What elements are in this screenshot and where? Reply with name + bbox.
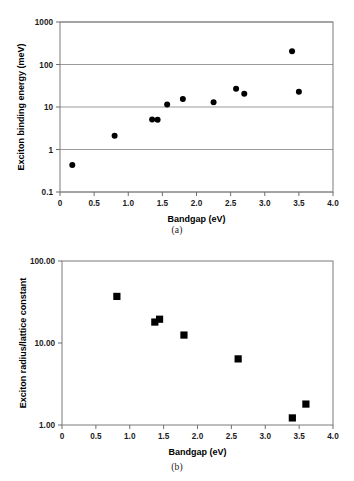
panel-a-caption: (a) xyxy=(0,225,354,235)
x-tick-label: 1.5 xyxy=(157,199,169,208)
x-tick-label: 0 xyxy=(58,199,63,208)
data-point-marker xyxy=(156,316,163,323)
x-tick-label: 0.5 xyxy=(88,199,100,208)
y-tick-label: 10.00 xyxy=(35,339,56,348)
figure-panel-b: 1.0010.00100.0000.51.01.52.02.53.03.54.0… xyxy=(0,240,354,481)
x-tick-label: 4.0 xyxy=(327,432,339,441)
y-axis-title: Exciton radius/lattice constant xyxy=(18,278,28,409)
x-tick-label: 0 xyxy=(60,432,65,441)
x-tick-label: 1.0 xyxy=(124,432,136,441)
x-tick-label: 1.5 xyxy=(158,432,170,441)
data-point-marker xyxy=(155,117,161,123)
y-tick-label: 1.00 xyxy=(39,421,55,430)
y-tick-label: 1000 xyxy=(35,18,54,27)
y-tick-label: 10 xyxy=(44,103,54,112)
y-tick-label: 100 xyxy=(39,61,53,70)
panel-b-caption: (b) xyxy=(0,462,354,472)
exciton-radius-ratio-chart: 1.0010.00100.0000.51.01.52.02.53.03.54.0… xyxy=(0,240,354,481)
figure-panel-a: 0.1110100100000.51.01.52.02.53.03.54.0Ba… xyxy=(0,0,354,240)
exciton-binding-energy-chart: 0.1110100100000.51.01.52.02.53.03.54.0Ba… xyxy=(0,0,354,240)
x-tick-label: 0.5 xyxy=(90,432,102,441)
data-point-marker xyxy=(302,400,309,407)
data-point-marker xyxy=(241,91,247,97)
x-tick-label: 3.0 xyxy=(260,432,272,441)
x-axis-title: Bandgap (eV) xyxy=(167,214,225,224)
data-point-marker xyxy=(289,48,295,54)
data-point-marker xyxy=(289,414,296,421)
x-tick-label: 2.5 xyxy=(225,199,237,208)
data-point-marker xyxy=(211,99,217,105)
x-tick-label: 2.0 xyxy=(192,432,204,441)
x-tick-label: 1.0 xyxy=(123,199,135,208)
data-point-marker xyxy=(233,86,239,92)
data-point-marker xyxy=(235,355,242,362)
x-tick-label: 2.0 xyxy=(191,199,203,208)
data-point-marker xyxy=(296,89,302,95)
x-tick-label: 4.0 xyxy=(327,199,339,208)
y-tick-label: 100.00 xyxy=(30,257,55,266)
data-point-marker xyxy=(113,293,120,300)
x-tick-label: 3.5 xyxy=(293,432,305,441)
x-tick-label: 3.5 xyxy=(293,199,305,208)
y-tick-label: 0.1 xyxy=(42,188,54,197)
x-axis-title: Bandgap (eV) xyxy=(168,447,226,457)
data-point-marker xyxy=(69,162,75,168)
data-point-marker xyxy=(149,116,155,122)
y-tick-label: 1 xyxy=(48,146,53,155)
data-point-marker xyxy=(180,331,187,338)
data-point-marker xyxy=(112,133,118,139)
y-axis-title: Exciton binding energy (meV) xyxy=(16,43,26,170)
x-tick-label: 3.0 xyxy=(259,199,271,208)
x-tick-label: 2.5 xyxy=(226,432,238,441)
data-point-marker xyxy=(164,101,170,107)
data-point-marker xyxy=(180,96,186,102)
